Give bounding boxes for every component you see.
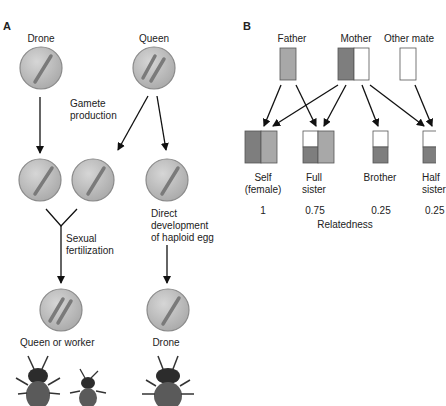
full-sister-genome-box <box>303 131 334 163</box>
brother-genome-box <box>373 131 388 163</box>
cell-sperm <box>19 159 61 201</box>
half-sister-genome-box <box>423 131 436 163</box>
bee-queen-icon <box>16 356 60 406</box>
other-mate-genome-box <box>400 48 416 80</box>
cell-drone-top <box>20 47 62 89</box>
cell-haploid-result <box>147 289 189 331</box>
cell-diploid-result <box>40 289 82 331</box>
bee-worker-icon <box>70 369 106 406</box>
self-genome-box <box>245 131 277 163</box>
mother-genome-box <box>338 48 369 80</box>
father-genome-box <box>280 48 296 80</box>
cell-egg-right <box>146 159 188 201</box>
cell-queen-top <box>133 47 175 89</box>
bee-drone-icon <box>142 356 194 406</box>
cell-egg-left <box>72 159 114 201</box>
